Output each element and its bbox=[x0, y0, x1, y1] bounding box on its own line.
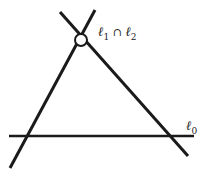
label-l2-subscript: 2 bbox=[131, 32, 137, 42]
intersection-point-marker bbox=[75, 34, 87, 46]
label-l0-subscript: 0 bbox=[191, 126, 197, 136]
intersection-operator: ∩ bbox=[109, 26, 125, 39]
l0-label: ℓ0 bbox=[186, 118, 197, 136]
diagram-canvas: ℓ1 ∩ ℓ2 ℓ0 bbox=[0, 0, 211, 176]
intersection-label: ℓ1 ∩ ℓ2 bbox=[98, 24, 137, 42]
